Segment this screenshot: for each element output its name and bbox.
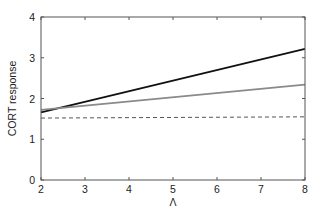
series-line-2 [41,117,305,118]
x-tick-label: 4 [126,183,132,195]
x-tick-label: 7 [258,183,264,195]
x-tick-label: 5 [170,183,176,195]
series-line-0 [41,49,305,113]
x-tick-label: 2 [38,183,44,195]
line-chart: 2345678 01234 Λ CORT response [0,0,321,214]
x-tick-label: 6 [214,183,220,195]
axes-box [41,17,305,180]
y-tick-label: 3 [29,52,35,64]
x-tick-label: 3 [82,183,88,195]
series-layer [41,49,305,118]
series-line-1 [41,85,305,110]
y-tick-label: 4 [29,11,35,23]
y-tick-label: 0 [29,174,35,186]
y-tick-label: 2 [29,93,35,105]
y-tick-label: 1 [29,133,35,145]
x-tick-label: 8 [302,183,308,195]
y-axis-label: CORT response [6,61,18,137]
x-axis-label: Λ [169,196,176,208]
